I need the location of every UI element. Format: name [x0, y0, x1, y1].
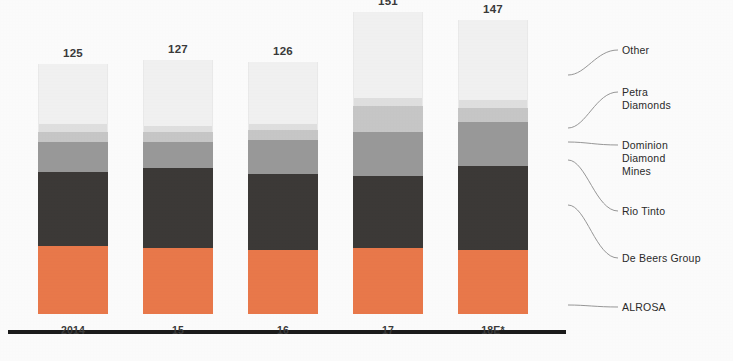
bar-segment-rio-tinto[interactable]: [353, 132, 423, 176]
bar-segment-dominion-diamond-mines[interactable]: [353, 106, 423, 132]
bar-segment-dominion-diamond-mines[interactable]: [143, 132, 213, 142]
bar-segment-de-beers-group[interactable]: [353, 176, 423, 248]
bar-segment-alrosa[interactable]: [248, 250, 318, 314]
bar-total-label: 126: [248, 45, 318, 57]
bar-segment-de-beers-group[interactable]: [248, 174, 318, 250]
x-axis-label: 18E*: [458, 324, 528, 336]
x-axis-label: 15: [143, 324, 213, 336]
chart-legend: OtherPetra DiamondsDominion Diamond Mine…: [560, 0, 733, 345]
bar-group-15: 12715: [143, 60, 213, 314]
bar-segment-other[interactable]: [458, 20, 528, 100]
leader-line: [568, 50, 618, 75]
legend-item-rio-tinto[interactable]: Rio Tinto: [622, 205, 665, 218]
stacked-bar[interactable]: [248, 62, 318, 314]
leader-line: [568, 205, 618, 258]
stacked-bar-chart: 125201412715126161511714718E* OtherPetra…: [0, 0, 733, 361]
leader-line: [568, 305, 618, 307]
stacked-bar[interactable]: [38, 64, 108, 314]
bar-total-label: 125: [38, 47, 108, 59]
leader-line: [568, 160, 618, 211]
bar-segment-dominion-diamond-mines[interactable]: [248, 130, 318, 140]
leader-line: [568, 142, 618, 145]
bar-segment-petra-diamonds[interactable]: [458, 100, 528, 108]
bar-segment-alrosa[interactable]: [458, 250, 528, 314]
bar-segment-dominion-diamond-mines[interactable]: [38, 132, 108, 142]
stacked-bar[interactable]: [353, 12, 423, 314]
legend-item-dominion-diamond-mines[interactable]: Dominion Diamond Mines: [622, 139, 668, 178]
bar-segment-alrosa[interactable]: [143, 248, 213, 314]
stacked-bar[interactable]: [458, 20, 528, 314]
bar-group-18e: 14718E*: [458, 20, 528, 314]
legend-item-de-beers-group[interactable]: De Beers Group: [622, 252, 701, 265]
bar-group-17: 15117: [353, 12, 423, 314]
stacked-bar[interactable]: [143, 60, 213, 314]
x-axis-label: 17: [353, 324, 423, 336]
bar-segment-petra-diamonds[interactable]: [353, 98, 423, 106]
bar-segment-de-beers-group[interactable]: [458, 166, 528, 250]
bar-segment-alrosa[interactable]: [38, 246, 108, 314]
bar-segment-petra-diamonds[interactable]: [38, 124, 108, 132]
bar-segment-rio-tinto[interactable]: [248, 140, 318, 174]
bar-segment-rio-tinto[interactable]: [458, 122, 528, 166]
bar-segment-de-beers-group[interactable]: [143, 168, 213, 248]
bar-total-label: 147: [458, 3, 528, 15]
x-axis-label: 16: [248, 324, 318, 336]
plot-area: 125201412715126161511714718E*: [0, 0, 600, 345]
bar-segment-other[interactable]: [353, 12, 423, 98]
bar-segment-dominion-diamond-mines[interactable]: [458, 108, 528, 122]
bar-total-label: 127: [143, 43, 213, 55]
bar-segment-alrosa[interactable]: [353, 248, 423, 314]
bar-segment-other[interactable]: [248, 62, 318, 124]
bar-group-2014: 1252014: [38, 64, 108, 314]
legend-item-other[interactable]: Other: [622, 44, 649, 57]
leader-line: [568, 92, 618, 128]
bar-total-label: 151: [353, 0, 423, 7]
bar-segment-other[interactable]: [143, 60, 213, 126]
bar-segment-rio-tinto[interactable]: [38, 142, 108, 172]
bar-segment-rio-tinto[interactable]: [143, 142, 213, 168]
bar-group-16: 12616: [248, 62, 318, 314]
bar-segment-de-beers-group[interactable]: [38, 172, 108, 246]
bar-segment-other[interactable]: [38, 64, 108, 124]
legend-item-petra-diamonds[interactable]: Petra Diamonds: [622, 86, 671, 112]
legend-item-alrosa[interactable]: ALROSA: [622, 301, 666, 314]
x-axis-label: 2014: [38, 324, 108, 336]
